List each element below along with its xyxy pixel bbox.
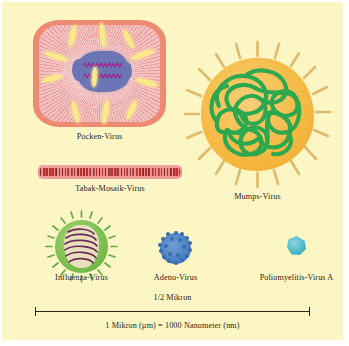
label-mumps-virus: Mumps-Virus: [192, 193, 323, 201]
label-adeno-virus: Adeno-Virus: [137, 274, 214, 282]
specimen-tabak-mosaik-virus: [38, 165, 182, 179]
adeno-capsomeres: [157, 230, 194, 267]
tabak-subunit-shadows: [40, 168, 180, 176]
scale-bar-left-cap: [35, 307, 36, 316]
polio-capsid: [287, 236, 306, 255]
tabak-rod-body: [38, 165, 182, 179]
label-influenza-virus: Influenza-Virus: [40, 274, 123, 282]
scale-bar-line: [35, 311, 310, 312]
scale-upper-label: 1/2 Mikron: [35, 294, 310, 302]
pocken-matrix: [39, 25, 160, 122]
specimen-poliomyelitis-virus-a: [287, 236, 306, 255]
scale-lower-label: 1 Mikron (µm) = 1000 Nanometer (nm): [35, 322, 310, 330]
specimen-mumps-virus: [192, 49, 323, 180]
pocken-dna-strand-lower: [83, 73, 124, 79]
scale-bar: [35, 307, 310, 316]
scale-bar-right-cap: [309, 307, 310, 316]
label-pocken-virus: Pocken-Virus: [33, 133, 166, 141]
specimen-pocken-virus: [33, 20, 166, 127]
influenza-helical-nucleocapsid: [64, 225, 98, 268]
label-poliomyelitis-virus-a: Poliomyelitis-Virus A: [234, 274, 343, 282]
label-tabak-mosaik-virus: Tabak-Mosaik-Virus: [38, 185, 182, 193]
specimen-adeno-virus: [157, 230, 194, 267]
mumps-rna-nucleocapsid-coil: [201, 58, 314, 171]
virus-size-illustration: Pocken-Virus: [2, 2, 343, 340]
pocken-dna-strand-upper: [83, 62, 124, 68]
pocken-nucleoid-core: [77, 51, 129, 92]
specimen-influenza-virus: [50, 215, 113, 278]
